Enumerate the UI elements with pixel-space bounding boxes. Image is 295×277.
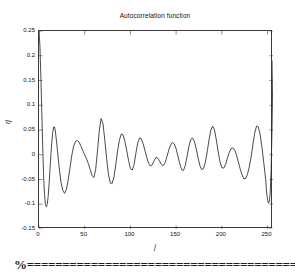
y-tick-label: 0 [32,151,35,157]
series-line-rj [39,31,273,207]
y-tick-label: 0.2 [27,52,35,58]
figure-autocorrelation: Autocorrelation function 0.25 0.2 0.15 0… [0,0,295,277]
y-tick-label: 0.1 [27,101,35,107]
x-axis-tick-labels: 0 50 100 150 200 250 [38,231,272,243]
x-tick-label: 100 [124,231,134,238]
x-axis-label: j [38,243,272,250]
y-tick-label: -0.1 [25,200,35,206]
chart-title: Autocorrelation function [38,12,272,19]
autocorrelation-curve [39,31,273,229]
y-tick-label: -0.15 [21,225,35,231]
x-tick-label: 150 [170,231,180,238]
y-axis-label: rj [4,120,11,124]
x-tick-label: 200 [216,231,226,238]
x-tick-label: 50 [80,231,87,238]
y-tick-marks [39,31,273,229]
x-tick-label: 250 [262,231,272,238]
y-tick-label: 0.05 [23,126,35,132]
x-tick-marks [39,31,268,229]
y-tick-label: 0.25 [23,27,35,33]
y-tick-label: 0.15 [23,77,35,83]
code-comment-separator: %=======================================… [14,256,295,274]
x-tick-label: 0 [36,231,39,238]
plot-area [38,30,272,228]
y-axis-tick-labels: 0.25 0.2 0.15 0.1 0.05 0 -0.05 -0.1 -0.1… [0,30,35,228]
y-tick-label: -0.05 [21,176,35,182]
